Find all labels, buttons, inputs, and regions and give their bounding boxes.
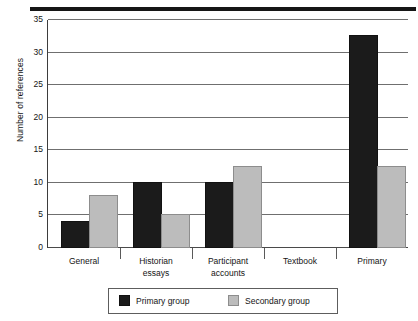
y-tick-label: 20 [34, 112, 43, 122]
plot-area: 05101520253035 [48, 20, 408, 248]
legend-label: Primary group [136, 296, 189, 306]
y-tick-label: 10 [34, 177, 43, 187]
y-tick-label: 25 [34, 79, 43, 89]
bar-primary [205, 182, 234, 248]
bar-group [264, 20, 336, 248]
bar-group [192, 20, 264, 248]
bar-secondary [233, 166, 262, 248]
x-category-label: Primary [324, 256, 418, 268]
bar-group [48, 20, 120, 248]
legend-label: Secondary group [245, 296, 310, 306]
bar-group [120, 20, 192, 248]
legend-swatch-primary [119, 295, 130, 306]
legend-entry: Secondary group [228, 295, 310, 306]
x-category-label-line: Primary [324, 256, 418, 268]
bar-secondary [89, 195, 118, 248]
bar-primary [133, 182, 162, 248]
legend-entry: Primary group [119, 295, 189, 306]
bar-group [336, 20, 408, 248]
y-tick-label: 0 [38, 242, 43, 252]
y-tick-label: 35 [34, 14, 43, 24]
x-category-label-line: accounts [180, 268, 276, 280]
bar-primary [61, 221, 90, 248]
bar-primary [349, 35, 378, 248]
bar-series-container [48, 20, 408, 248]
y-axis-label: Number of references [15, 35, 25, 165]
y-tick-label: 15 [34, 144, 43, 154]
y-tick-label: 30 [34, 47, 43, 57]
bar-chart-figure: Number of references 05101520253035 Gene… [0, 0, 418, 321]
legend-swatch-secondary [228, 295, 239, 306]
chart-legend: Primary groupSecondary group [108, 288, 338, 314]
bar-secondary [377, 166, 406, 248]
y-tick-label: 5 [38, 209, 43, 219]
bar-secondary [161, 214, 190, 248]
